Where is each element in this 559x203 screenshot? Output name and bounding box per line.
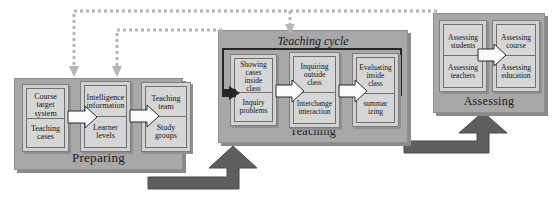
teaching-cell-inquiring-outside-class[interactable]: Inquiring outside class bbox=[293, 56, 336, 94]
assessing-cell-assessing-teachers[interactable]: Assessing teachers bbox=[443, 55, 483, 88]
assessing-cell-assessing-education[interactable]: Assessing education bbox=[496, 55, 536, 88]
teaching-group-1[interactable]: Showing cases inside class Inquiry probl… bbox=[230, 54, 277, 126]
feedback-arrow-teaching-to-preparing bbox=[112, 30, 222, 77]
preparing-cell-learner-levels[interactable]: Learner levels bbox=[84, 116, 127, 148]
assessing-group-1[interactable]: Assessing students Assessing teachers bbox=[439, 20, 487, 92]
assessing-cell-assessing-course[interactable]: Assessing course bbox=[496, 24, 536, 59]
preparing-group-3[interactable]: Teaching team Study groups bbox=[141, 82, 191, 152]
preparing-group-2[interactable]: Intelligence information Learner levels bbox=[80, 81, 131, 152]
teaching-cycle-label: Teaching cycle bbox=[219, 34, 407, 49]
teaching-cell-inquiry-problems[interactable]: Inquiry problems bbox=[234, 92, 273, 122]
teaching-group-2[interactable]: Inquiring outside class Interchange inte… bbox=[289, 52, 340, 128]
preparing-cell-study-groups[interactable]: Study groups bbox=[145, 116, 187, 148]
panel-assessing-title: Assessing bbox=[434, 94, 544, 109]
diagram-canvas: Preparing Course target system Teaching … bbox=[0, 0, 559, 203]
panel-preparing-title: Preparing bbox=[15, 150, 182, 166]
teaching-cell-summarizing[interactable]: summar izing bbox=[356, 93, 395, 123]
preparing-group-1[interactable]: Course target system Teaching cases bbox=[22, 84, 69, 152]
teaching-cell-showing-cases-inside-class[interactable]: Showing cases inside class bbox=[234, 58, 273, 96]
teaching-cell-interchange-interaction[interactable]: Interchange interaction bbox=[293, 92, 336, 124]
flow-arrow-teaching-to-assessing bbox=[404, 112, 507, 153]
preparing-cell-teaching-team[interactable]: Teaching team bbox=[145, 86, 187, 120]
assessing-cell-assessing-students[interactable]: Assessing students bbox=[443, 24, 483, 59]
assessing-group-2[interactable]: Assessing course Assessing education bbox=[492, 20, 540, 92]
preparing-cell-intelligence-information[interactable]: Intelligence information bbox=[84, 85, 127, 119]
teaching-group-3[interactable]: Evaluating inside class summar izing bbox=[352, 53, 399, 127]
preparing-cell-teaching-cases[interactable]: Teaching cases bbox=[26, 118, 65, 148]
teaching-cell-evaluating-inside-class[interactable]: Evaluating inside class bbox=[356, 57, 395, 95]
